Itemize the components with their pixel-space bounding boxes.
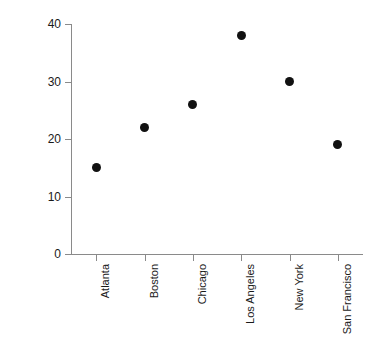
y-tick-mark [65,24,71,25]
x-tick-mark [193,255,194,261]
y-tick-label: 30 [21,76,61,88]
data-point [92,163,101,172]
data-point [237,31,246,40]
data-point [140,123,149,132]
x-tick-label: Boston [149,264,160,298]
x-tick-mark [96,255,97,261]
data-point [188,100,197,109]
x-tick-label: Los Angeles [245,264,256,324]
data-point [333,140,342,149]
y-tick-mark [65,82,71,83]
y-tick-label: 20 [21,133,61,145]
y-tick-mark [65,197,71,198]
x-tick-label: Chicago [197,264,208,304]
y-tick-mark [65,254,71,255]
y-tick-label: 10 [21,191,61,203]
x-tick-mark [241,255,242,261]
x-tick-label: San Francisco [342,264,353,334]
x-tick-mark [290,255,291,261]
y-tick-label: 40 [21,18,61,30]
x-tick-label: New York [294,264,305,310]
plot-area [72,24,362,254]
y-tick-label: 0 [21,248,61,260]
y-tick-mark [65,139,71,140]
scatter-chart: Median commute time (minutes) 010203040 … [0,0,383,345]
data-point [285,77,294,86]
x-tick-mark [145,255,146,261]
x-axis-line [71,254,363,255]
x-tick-label: Atlanta [100,264,111,298]
x-tick-mark [338,255,339,261]
